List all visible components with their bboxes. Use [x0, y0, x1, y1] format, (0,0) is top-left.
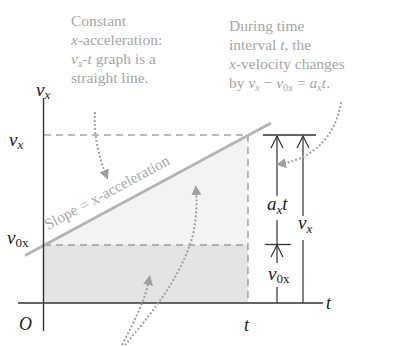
tick-label-v0x: v0x [7, 227, 29, 250]
dotted-arrow-left-caption [95, 112, 106, 175]
origin-label: O [19, 314, 32, 334]
tick-label-vx: vx [9, 129, 23, 152]
x-axis-label: t [326, 293, 332, 313]
vx-t-graph: Slope = x-acceleration vx t O vx v0x t a… [0, 0, 407, 347]
bracket-label-vx: vx [298, 212, 312, 236]
y-axis-label: vx [36, 79, 50, 102]
dotted-arrow-right-caption [281, 102, 341, 164]
tick-label-t: t [244, 315, 250, 335]
